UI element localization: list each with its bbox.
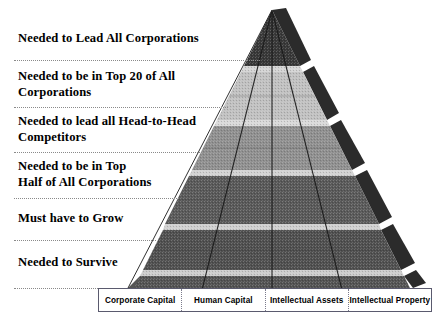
tier-label-3: Needed to lead all Head-to-Head Competit… bbox=[18, 114, 196, 145]
tier-separator-5 bbox=[14, 240, 156, 241]
diagram-canvas: Needed to Lead All Corporations Needed t… bbox=[0, 0, 448, 327]
tier-separator-3 bbox=[14, 152, 204, 153]
tier-separator-1 bbox=[14, 60, 260, 61]
tier-label-6: Needed to Survive bbox=[18, 255, 118, 271]
column-label-human-capital: Human Capital bbox=[182, 289, 265, 311]
tier-separator-2 bbox=[14, 107, 228, 108]
column-label-intellectual-property: Intellectual Property bbox=[349, 289, 431, 311]
tier-label-5: Must have to Grow bbox=[18, 211, 123, 227]
tier-label-1: Needed to Lead All Corporations bbox=[18, 31, 199, 47]
column-label-box: Corporate Capital Human Capital Intellec… bbox=[98, 288, 432, 312]
tier-label-2: Needed to be in Top 20 of All Corporatio… bbox=[18, 69, 175, 100]
column-label-intellectual-assets: Intellectual Assets bbox=[266, 289, 349, 311]
tier-label-4: Needed to be in Top Half of All Corporat… bbox=[18, 159, 152, 190]
tier-separator-4 bbox=[14, 198, 179, 199]
column-label-corporate-capital: Corporate Capital bbox=[99, 289, 182, 311]
